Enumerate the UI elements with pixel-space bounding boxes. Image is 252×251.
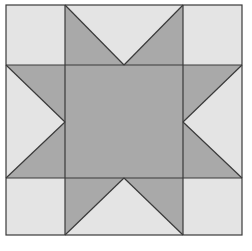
star-center-square xyxy=(65,65,183,178)
sawtooth-star-quilt-block xyxy=(0,0,252,251)
